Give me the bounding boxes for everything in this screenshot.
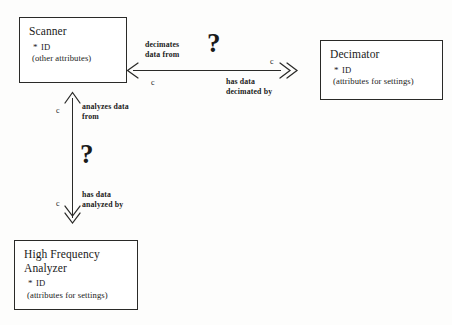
arrowhead-down-double-icon	[64, 205, 81, 225]
cardinality-label-scanner-top: c	[56, 107, 60, 115]
attribute-key-scanner: *ID	[29, 42, 126, 54]
entity-attributes-decimator: *ID (attributes for settings)	[321, 65, 442, 88]
key-bullet-icon: *	[334, 65, 342, 77]
entity-title-high-frequency-analyzer: High Frequency Analyzer	[15, 248, 137, 275]
attribute-key-decimator: *ID	[330, 65, 442, 77]
attribute-other-scanner: (other attributes)	[29, 53, 126, 65]
attribute-key-label-high-frequency-analyzer: ID	[36, 278, 45, 288]
diagram-canvas: Scanner *ID (other attributes) Decimator…	[0, 0, 452, 325]
uncertainty-marker-scanner-hfa: ?	[80, 141, 94, 168]
arrowhead-left-single-icon	[126, 62, 140, 79]
arrowhead-right-double-icon	[279, 62, 299, 79]
attribute-other-high-frequency-analyzer: (attributes for settings)	[24, 290, 137, 302]
cardinality-label-hfa-bottom: c	[56, 200, 60, 208]
entity-attributes-high-frequency-analyzer: *ID (attributes for settings)	[15, 278, 137, 301]
arrowhead-up-single-icon	[64, 91, 81, 105]
relationship-line-scanner-decimator[interactable]	[133, 70, 281, 71]
relationship-label-analyzes-data-from: analyzes data from	[82, 102, 129, 121]
relationship-label-decimates-data-from: decimates data from	[145, 40, 179, 59]
key-bullet-icon: *	[33, 42, 41, 54]
entity-box-scanner[interactable]: Scanner *ID (other attributes)	[19, 17, 127, 83]
entity-box-decimator[interactable]: Decimator *ID (attributes for settings)	[320, 40, 443, 100]
relationship-line-scanner-hfa[interactable]	[72, 98, 73, 218]
relationship-label-has-data-analyzed-by: has data analyzed by	[82, 190, 123, 209]
entity-box-high-frequency-analyzer[interactable]: High Frequency Analyzer *ID (attributes …	[14, 240, 138, 310]
attribute-key-high-frequency-analyzer: *ID	[24, 278, 137, 290]
attribute-key-label-scanner: ID	[41, 42, 50, 52]
attribute-key-label-decimator: ID	[342, 65, 351, 75]
entity-title-scanner: Scanner	[20, 25, 126, 39]
cardinality-label-decimator-side: c	[270, 58, 274, 66]
cardinality-label-scanner-side: c	[151, 79, 155, 87]
relationship-label-has-data-decimated-by: has data decimated by	[226, 77, 272, 96]
uncertainty-marker-scanner-decimator: ?	[207, 30, 221, 57]
key-bullet-icon: *	[28, 278, 36, 290]
entity-attributes-scanner: *ID (other attributes)	[20, 42, 126, 65]
entity-title-decimator: Decimator	[321, 48, 442, 62]
attribute-other-decimator: (attributes for settings)	[330, 76, 442, 88]
